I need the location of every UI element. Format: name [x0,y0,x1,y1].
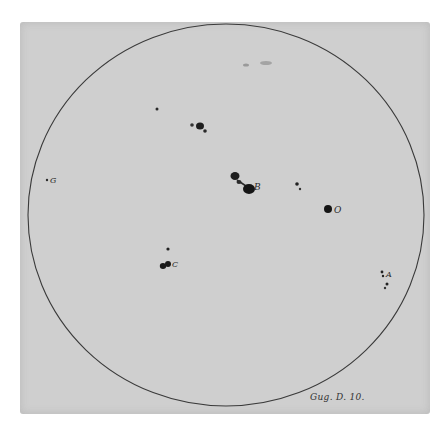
label-b: B [253,182,261,192]
sunspot-group-c: C [160,247,178,269]
label-a: A [385,270,392,279]
label-c: C [172,260,178,269]
solar-disk-outline [28,24,424,406]
sunspot-group-upper [190,123,207,133]
sunspot-o: O [324,205,342,215]
label-g: G [50,176,57,185]
label-o: O [334,205,342,215]
faint-smudge [260,61,272,65]
faint-smudge [243,63,249,66]
sunspot-drawing: G B O C A [0,0,446,430]
sunspot-pair [295,182,301,190]
plate-caption: Gug. D. 10. [310,392,365,402]
sunspot-group-a: A [381,270,392,289]
sunspot-g: G [46,176,57,185]
sunspot-group-b: B [231,172,262,194]
sunspot-small [156,108,159,111]
